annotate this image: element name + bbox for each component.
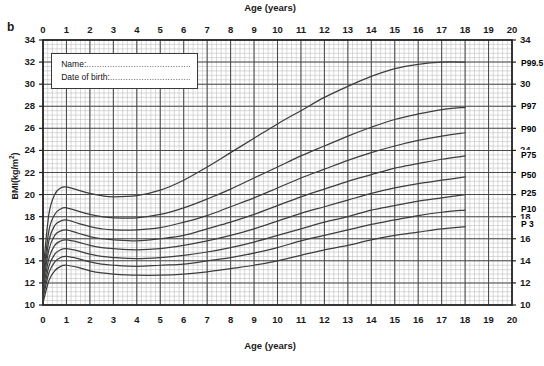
x-tick-bottom-16: 16 xyxy=(407,314,429,325)
percentile-label-p99-5: P99.5 xyxy=(520,58,544,68)
y-tick-right-12: 12 xyxy=(520,277,540,289)
percentile-label-p90: P90 xyxy=(520,124,537,134)
x-tick-bottom-19: 19 xyxy=(478,314,500,325)
x-tick-bottom-1: 1 xyxy=(55,314,77,325)
percentile-label-p75: P75 xyxy=(520,150,537,160)
x-tick-bottom-9: 9 xyxy=(243,314,265,325)
y-tick-left-26: 26 xyxy=(15,122,35,134)
y-tick-left-34: 34 xyxy=(15,34,35,46)
x-tick-top-12: 12 xyxy=(313,24,335,35)
y-tick-left-20: 20 xyxy=(15,189,35,201)
x-tick-bottom-17: 17 xyxy=(431,314,453,325)
x-tick-top-4: 4 xyxy=(126,24,148,35)
x-tick-top-16: 16 xyxy=(407,24,429,35)
y-tick-right-34: 34 xyxy=(520,34,540,46)
name-dotted-line: ........................................… xyxy=(86,60,190,69)
x-tick-bottom-12: 12 xyxy=(313,314,335,325)
y-tick-left-22: 22 xyxy=(15,167,35,179)
y-tick-left-14: 14 xyxy=(15,255,35,267)
name-field-line[interactable]: Name:...................................… xyxy=(61,58,190,71)
x-tick-top-5: 5 xyxy=(149,24,171,35)
x-axis-title-bottom: Age (years) xyxy=(0,340,540,351)
percentile-label-p3: P 3 xyxy=(520,219,535,229)
y-tick-right-10: 10 xyxy=(520,299,540,311)
x-tick-bottom-0: 0 xyxy=(32,314,54,325)
y-tick-left-10: 10 xyxy=(15,299,35,311)
y-tick-left-28: 28 xyxy=(15,100,35,112)
x-tick-top-2: 2 xyxy=(79,24,101,35)
x-tick-bottom-11: 11 xyxy=(290,314,312,325)
panel-label: b xyxy=(7,20,14,34)
x-tick-top-11: 11 xyxy=(290,24,312,35)
x-tick-top-10: 10 xyxy=(267,24,289,35)
x-tick-bottom-4: 4 xyxy=(126,314,148,325)
x-tick-bottom-18: 18 xyxy=(454,314,476,325)
x-tick-top-14: 14 xyxy=(360,24,382,35)
y-axis-title-exponent: 2 xyxy=(8,155,15,159)
percentile-label-p50: P50 xyxy=(520,170,537,180)
y-tick-left-12: 12 xyxy=(15,277,35,289)
x-tick-bottom-13: 13 xyxy=(337,314,359,325)
x-tick-top-3: 3 xyxy=(102,24,124,35)
x-tick-top-9: 9 xyxy=(243,24,265,35)
percentile-label-p10: P10 xyxy=(520,204,537,214)
x-tick-top-0: 0 xyxy=(32,24,54,35)
x-tick-bottom-8: 8 xyxy=(220,314,242,325)
x-tick-bottom-5: 5 xyxy=(149,314,171,325)
x-tick-top-17: 17 xyxy=(431,24,453,35)
x-tick-bottom-10: 10 xyxy=(267,314,289,325)
x-tick-top-8: 8 xyxy=(220,24,242,35)
percentile-label-p97: P97 xyxy=(520,101,537,111)
y-tick-right-14: 14 xyxy=(520,255,540,267)
x-tick-top-6: 6 xyxy=(173,24,195,35)
x-tick-top-13: 13 xyxy=(337,24,359,35)
name-label: Name: xyxy=(61,59,86,69)
x-tick-bottom-20: 20 xyxy=(501,314,523,325)
y-tick-left-16: 16 xyxy=(15,233,35,245)
x-tick-top-7: 7 xyxy=(196,24,218,35)
x-tick-bottom-6: 6 xyxy=(173,314,195,325)
y-tick-left-24: 24 xyxy=(15,144,35,156)
x-tick-top-1: 1 xyxy=(55,24,77,35)
x-tick-bottom-3: 3 xyxy=(102,314,124,325)
y-tick-left-30: 30 xyxy=(15,78,35,90)
x-axis-title-top: Age (years) xyxy=(0,2,540,13)
x-tick-top-15: 15 xyxy=(384,24,406,35)
patient-info-box: Name:...................................… xyxy=(51,53,198,88)
x-tick-top-19: 19 xyxy=(478,24,500,35)
dob-dotted-line: ............................... xyxy=(110,73,190,82)
y-tick-left-18: 18 xyxy=(15,211,35,223)
x-tick-top-18: 18 xyxy=(454,24,476,35)
dob-field-line[interactable]: Date of birth:..........................… xyxy=(61,71,190,84)
y-tick-right-30: 30 xyxy=(520,78,540,90)
x-tick-bottom-2: 2 xyxy=(79,314,101,325)
x-tick-bottom-14: 14 xyxy=(360,314,382,325)
x-tick-bottom-7: 7 xyxy=(196,314,218,325)
y-tick-right-16: 16 xyxy=(520,233,540,245)
x-tick-bottom-15: 15 xyxy=(384,314,406,325)
percentile-label-p25: P25 xyxy=(520,188,537,198)
y-tick-left-32: 32 xyxy=(15,56,35,68)
dob-label: Date of birth: xyxy=(61,72,110,82)
